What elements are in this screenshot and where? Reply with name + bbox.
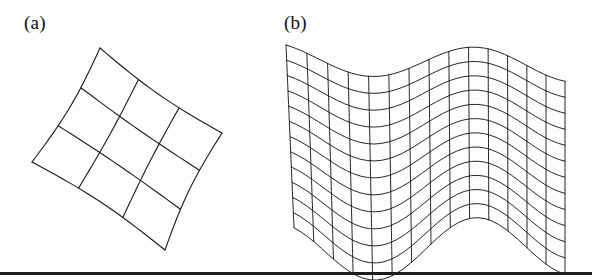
- mesh-a-col-0: [32, 48, 100, 162]
- mesh-b-row-10: [293, 190, 565, 246]
- mesh-b-col-0: [286, 45, 294, 228]
- mesh-b-col-2: [328, 63, 334, 259]
- mesh-b-col-1: [307, 53, 314, 241]
- mesh-b-row-9: [292, 175, 565, 228]
- mesh-diagram-canvas: [0, 0, 592, 280]
- mesh-b-col-10: [488, 49, 489, 220]
- mesh-a-col-3: [165, 133, 222, 250]
- mesh-panel-b: [286, 45, 565, 280]
- mesh-b-col-9: [469, 47, 470, 218]
- mesh-a-col-1: [79, 80, 139, 189]
- mesh-b-row-11: [293, 204, 565, 263]
- figure-root: (a) (b): [0, 0, 592, 280]
- mesh-b-row-12: [294, 218, 565, 280]
- mesh-panel-a: [32, 48, 222, 250]
- bottom-horizontal-rule: [0, 272, 592, 275]
- mesh-a-row-0: [100, 48, 222, 133]
- mesh-a-row-3: [32, 162, 165, 250]
- mesh-a-row-1: [81, 88, 200, 171]
